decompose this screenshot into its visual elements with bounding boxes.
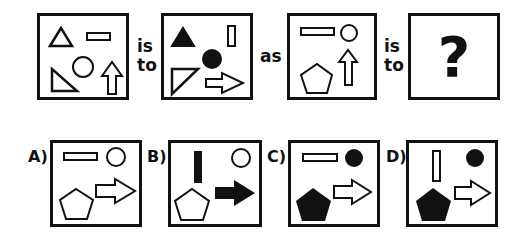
filled-circle-icon bbox=[202, 49, 222, 69]
right-arrow-icon bbox=[455, 181, 490, 205]
filled-vertical-rectangle-icon bbox=[194, 151, 202, 183]
option-d-label: D) bbox=[386, 147, 407, 166]
filled-circle-icon bbox=[345, 149, 363, 167]
shapes-set-1 bbox=[40, 16, 126, 97]
right-triangle-icon bbox=[52, 69, 77, 91]
filled-pentagon-icon bbox=[296, 188, 331, 221]
rectangle-icon bbox=[64, 153, 97, 160]
pentagon-icon bbox=[301, 64, 332, 93]
circle-icon bbox=[341, 25, 357, 41]
circle-icon bbox=[107, 148, 125, 166]
pentagon-icon bbox=[60, 189, 93, 219]
filled-pentagon-icon bbox=[416, 188, 451, 221]
option-a-label: A) bbox=[28, 147, 48, 166]
rectangle-icon bbox=[303, 154, 337, 161]
rectangle-icon bbox=[87, 33, 110, 40]
word-is: is bbox=[137, 37, 157, 56]
right-arrow-icon bbox=[96, 179, 135, 203]
word-to: to bbox=[384, 56, 404, 75]
inverted-right-triangle-icon bbox=[172, 69, 198, 94]
option-a[interactable] bbox=[50, 140, 142, 227]
is-to-label-1: is to bbox=[137, 37, 157, 75]
circle-icon bbox=[73, 57, 93, 77]
analogy-box-1 bbox=[37, 13, 129, 100]
shapes-option-c bbox=[291, 143, 377, 224]
option-c[interactable] bbox=[288, 140, 380, 227]
analogy-box-3 bbox=[287, 13, 377, 100]
option-b-label: B) bbox=[147, 147, 167, 166]
filled-circle-icon bbox=[466, 149, 484, 167]
word-is: is bbox=[384, 37, 404, 56]
up-arrow-icon bbox=[339, 50, 357, 85]
shapes-set-2 bbox=[164, 16, 250, 97]
right-arrow-icon bbox=[206, 73, 243, 93]
circle-icon bbox=[232, 149, 250, 167]
pentagon-icon bbox=[175, 189, 209, 220]
is-to-label-2: is to bbox=[384, 37, 404, 75]
analogy-box-2 bbox=[161, 13, 253, 100]
option-d[interactable] bbox=[406, 140, 498, 227]
answer-box: ? bbox=[408, 13, 500, 100]
shapes-option-d bbox=[409, 143, 495, 224]
filled-right-arrow-icon bbox=[215, 180, 255, 206]
triangle-icon bbox=[50, 28, 72, 46]
right-arrow-icon bbox=[334, 180, 371, 204]
option-b[interactable] bbox=[168, 140, 262, 227]
word-to: to bbox=[137, 56, 157, 75]
vertical-rectangle-icon bbox=[433, 151, 440, 181]
vertical-rectangle-icon bbox=[228, 26, 235, 46]
up-arrow-icon bbox=[102, 62, 122, 94]
shapes-option-a bbox=[53, 143, 139, 224]
rectangle-icon bbox=[301, 28, 334, 35]
option-c-label: C) bbox=[267, 147, 286, 166]
shapes-option-b bbox=[171, 143, 259, 224]
shapes-set-3 bbox=[290, 16, 374, 97]
as-label: as bbox=[260, 47, 282, 66]
question-mark-icon: ? bbox=[411, 24, 497, 90]
filled-triangle-icon bbox=[172, 28, 194, 46]
